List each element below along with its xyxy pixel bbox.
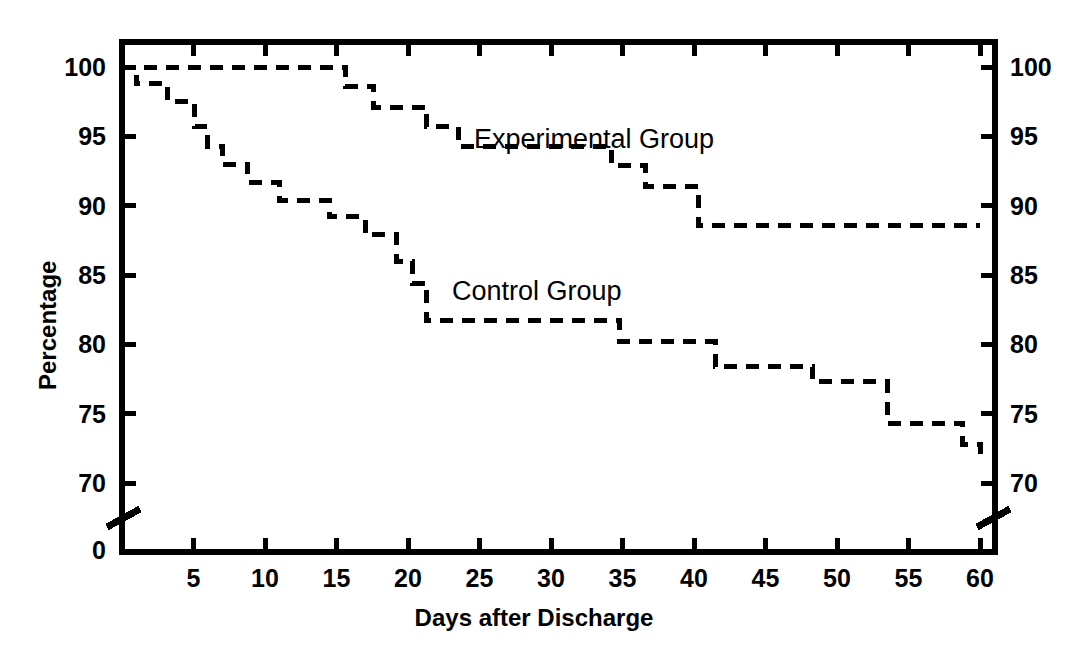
y-tick-label-left: 75 [40, 401, 106, 426]
x-tick-label: 10 [251, 566, 279, 591]
y-tick-label-right: 70 [1010, 471, 1038, 496]
x-tick-label: 20 [394, 566, 422, 591]
x-tick-label: 15 [323, 566, 351, 591]
y-tick-label-left: 100 [40, 55, 106, 80]
y-tick-label-left: 70 [40, 471, 106, 496]
series-label-control: Control Group [452, 276, 622, 307]
y-axis-zero-label: 0 [40, 538, 106, 563]
x-tick-label: 45 [752, 566, 780, 591]
y-tick-label-right: 80 [1010, 332, 1038, 357]
y-tick-label-left: 85 [40, 263, 106, 288]
y-tick-label-left: 90 [40, 193, 106, 218]
y-tick-label-left: 95 [40, 124, 106, 149]
x-tick-label: 55 [895, 566, 923, 591]
x-tick-label: 50 [823, 566, 851, 591]
y-tick-label-right: 75 [1010, 401, 1038, 426]
survival-curve-figure: Percentage Days after Discharge Experime… [0, 0, 1068, 672]
x-tick-label: 25 [466, 566, 494, 591]
x-tick-label: 30 [537, 566, 565, 591]
y-tick-label-left: 80 [40, 332, 106, 357]
x-axis-title: Days after Discharge [0, 604, 1068, 632]
y-tick-label-right: 85 [1010, 263, 1038, 288]
x-tick-label: 5 [187, 566, 201, 591]
y-tick-label-right: 95 [1010, 124, 1038, 149]
series-label-experimental: Experimental Group [474, 124, 714, 155]
y-tick-label-right: 100 [1010, 55, 1052, 80]
y-tick-label-right: 90 [1010, 193, 1038, 218]
x-tick-label: 40 [680, 566, 708, 591]
x-tick-label: 35 [609, 566, 637, 591]
x-tick-label: 60 [966, 566, 994, 591]
